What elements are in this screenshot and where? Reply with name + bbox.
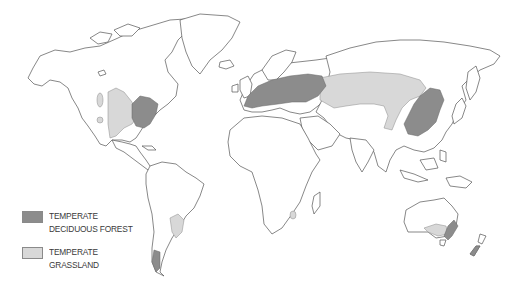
southeast-asia-islands	[420, 158, 438, 170]
map-legend: TEMPERATE DECIDUOUS FOREST TEMPERATE GRA…	[22, 209, 149, 281]
madagascar-landmass	[312, 192, 320, 214]
central-america-landmass	[112, 140, 154, 170]
tasmania-landmass	[440, 240, 446, 246]
ireland-landmass	[232, 84, 238, 92]
new-guinea-landmass	[446, 176, 472, 188]
iceland-landmass	[219, 60, 234, 69]
grassland-africa	[290, 211, 296, 219]
legend-item-grassland: TEMPERATE GRASSLAND	[22, 245, 149, 271]
legend-label-grassland: TEMPERATE GRASSLAND	[49, 245, 137, 271]
caribbean-islands	[142, 146, 156, 150]
legend-item-forest: TEMPERATE DECIDUOUS FOREST	[22, 209, 149, 235]
southeast-asia-islands	[400, 170, 428, 182]
forest-swatch	[22, 211, 43, 223]
legend-label-forest: TEMPERATE DECIDUOUS FOREST	[49, 209, 137, 235]
grassland-north-america-small	[97, 93, 103, 107]
grassland-north-america-small	[97, 117, 103, 123]
new-zealand-landmass	[478, 234, 486, 244]
forest-new-zealand	[470, 246, 480, 256]
grassland-swatch	[22, 247, 43, 259]
forest-chile	[152, 250, 160, 272]
southeast-asia-islands	[440, 150, 446, 162]
forest-eastern-north-america	[132, 96, 158, 128]
